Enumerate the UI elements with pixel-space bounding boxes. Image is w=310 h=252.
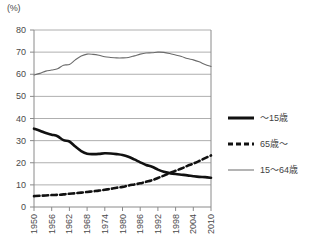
gridlines [34,30,211,207]
legend-line-glyph [228,143,254,146]
legend-item-label: 〜15歳 [260,114,288,123]
population-age-structure-chart: (%) 01020304050607080 195019561962196819… [0,0,310,252]
legend-line-glyph [228,170,254,171]
legend-item-label: 15〜64歳 [260,166,298,175]
series-line-1 [34,129,211,178]
legend-item-1[interactable]: 〜15歳 [228,108,308,128]
legend-line-glyph [228,117,254,120]
legend-swatch-icon [228,139,254,149]
legend-item-3[interactable]: 15〜64歳 [228,160,308,180]
legend-swatch-icon [228,113,254,123]
legend-item-2[interactable]: 65歳〜 [228,134,308,154]
chart-legend: 〜15歳65歳〜15〜64歳 [228,108,308,186]
series-line-3 [34,52,211,75]
legend-item-label: 65歳〜 [260,140,288,149]
data-series-layer [34,52,211,196]
legend-swatch-icon [228,165,254,175]
